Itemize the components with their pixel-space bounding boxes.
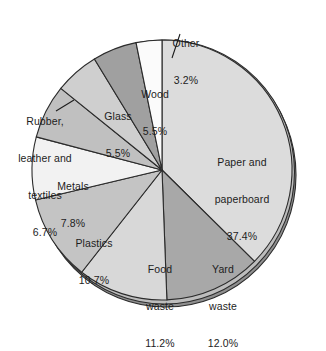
slice-label-plastics: Plastics 10.7% xyxy=(76,212,113,311)
slice-label-paper-and-paperboard: Paper and paperboard 37.4% xyxy=(215,131,270,267)
slice-label-plastics-name: Plastics xyxy=(76,237,113,249)
slice-label-other: Other 3.2% xyxy=(173,12,200,111)
slice-label-food-percent: 11.2% xyxy=(145,337,175,349)
slice-label-other-name: Other xyxy=(173,37,200,49)
slice-label-other-percent: 3.2% xyxy=(173,74,200,86)
slice-label-paper-name-1: Paper and xyxy=(215,156,270,168)
slice-label-food-name-1: Food xyxy=(145,263,175,275)
slice-label-glass-name: Glass xyxy=(104,110,131,122)
slice-label-food-waste: Food waste 11.2% xyxy=(145,238,175,351)
slice-label-wood-percent: 5.5% xyxy=(141,125,169,137)
slice-label-glass: Glass 5.5% xyxy=(104,85,131,184)
slice-label-glass-percent: 5.5% xyxy=(104,147,131,159)
slice-label-wood-name: Wood xyxy=(141,88,169,100)
slice-label-rubber-name-1: Rubber, xyxy=(18,115,72,127)
slice-label-paper-name-2: paperboard xyxy=(215,193,270,205)
slice-label-yard-name-2: waste xyxy=(208,300,238,312)
slice-label-metals-name: Metals xyxy=(57,180,89,192)
slice-label-plastics-percent: 10.7% xyxy=(76,274,113,286)
slice-label-wood: Wood 5.5% xyxy=(141,63,169,162)
slice-label-food-name-2: waste xyxy=(145,300,175,312)
slice-label-yard-percent: 12.0% xyxy=(208,337,238,349)
slice-label-paper-percent: 37.4% xyxy=(215,230,270,242)
